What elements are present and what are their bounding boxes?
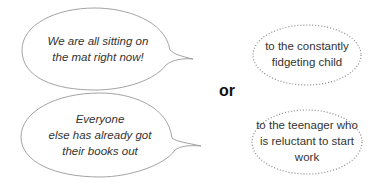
thought-bubble-2-text: to the teenager who is reluctant to star… <box>249 117 365 165</box>
text-line: to the teenager who <box>249 117 365 133</box>
speech-bubble-2-text: Everyone else has already got their book… <box>34 111 166 159</box>
or-label: or <box>219 82 235 100</box>
text-line: to the constantly <box>253 38 361 54</box>
thought-bubble-1-text: to the constantly fidgeting child <box>253 38 361 70</box>
text-line: their books out <box>34 143 166 159</box>
text-line: the mat right now! <box>34 49 162 65</box>
text-line: is reluctant to start <box>249 133 365 149</box>
text-line: We are all sitting on <box>34 33 162 49</box>
text-line: else has already got <box>34 127 166 143</box>
text-line: Everyone <box>34 111 166 127</box>
speech-bubble-1-text: We are all sitting on the mat right now! <box>34 33 162 65</box>
text-line: work <box>249 149 365 165</box>
text-line: fidgeting child <box>253 54 361 70</box>
